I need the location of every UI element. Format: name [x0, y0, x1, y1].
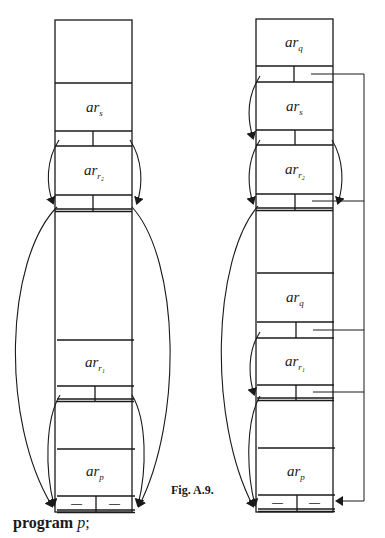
right-stack-labels: arq ars arr₂ arq arr₁ arp — —	[272, 34, 320, 508]
right-frame-ar-q-top: arq	[285, 34, 303, 53]
static-link-rail	[311, 74, 364, 501]
right-frame-ar-q-mid: arq	[286, 289, 304, 308]
right-stack	[256, 19, 335, 512]
right-frame-ar-r1: arr₁	[285, 353, 305, 372]
left-arrow-long-a	[15, 207, 57, 506]
right-bottom-cell-2: —	[309, 496, 320, 508]
left-stack-outline	[55, 20, 132, 512]
right-arrow-r2-to-bottom	[221, 206, 258, 506]
right-arrow-q-to-s	[249, 76, 260, 138]
left-frame-ar-s: ars	[86, 99, 103, 118]
program-declaration: program p;	[13, 514, 90, 532]
figure-caption: Fig. A.9.	[171, 483, 214, 498]
left-stack	[55, 20, 135, 513]
program-keyword: program	[13, 514, 73, 531]
right-stack-outline	[256, 19, 333, 512]
left-frame-ar-r2: arr₂	[84, 162, 104, 181]
right-frame-ar-s: ars	[286, 98, 303, 117]
left-arrow-short-1a	[48, 140, 59, 203]
right-arrow-r1-to-bottom	[249, 396, 260, 505]
right-frame-ar-r2: arr₂	[285, 161, 305, 180]
left-bottom-cell-1: —	[71, 497, 82, 509]
left-frame-ar-p: arp	[86, 463, 104, 482]
right-bottom-cell-1: —	[272, 496, 283, 508]
left-arrow-short-2a	[48, 395, 60, 505]
program-terminator: ;	[85, 514, 89, 531]
left-arrow-long-b	[132, 207, 170, 506]
activation-record-diagram: ars arr₂ arr₁ arp — —	[0, 0, 385, 538]
left-frame-ar-r1: arr₁	[85, 354, 105, 373]
left-stack-labels: ars arr₂ arr₁ arp — —	[71, 99, 120, 509]
left-arrow-short-2b	[132, 395, 144, 505]
right-frame-ar-p: arp	[287, 463, 305, 482]
program-name: p	[77, 514, 85, 531]
left-bottom-cell-2: —	[109, 497, 120, 509]
right-stack-arrows	[221, 76, 342, 506]
